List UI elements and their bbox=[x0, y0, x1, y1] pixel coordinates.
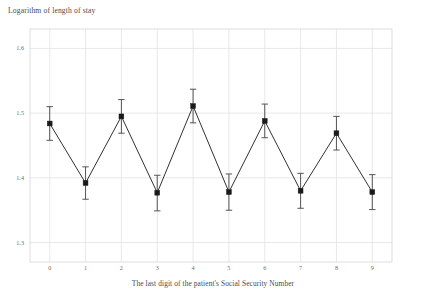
x-tick-label: 8 bbox=[329, 264, 343, 271]
y-tick-label: 1.6 bbox=[6, 44, 24, 51]
x-tick-label: 5 bbox=[222, 264, 236, 271]
x-tick-label: 3 bbox=[150, 264, 164, 271]
data-line bbox=[50, 106, 373, 193]
plot-canvas bbox=[0, 0, 426, 295]
x-tick-label: 7 bbox=[294, 264, 308, 271]
grid-lines bbox=[30, 29, 392, 262]
x-axis-label: The last digit of the patient's Social S… bbox=[0, 279, 426, 288]
x-tick-label: 2 bbox=[114, 264, 128, 271]
x-tick-label: 6 bbox=[258, 264, 272, 271]
y-tick-label: 1.3 bbox=[6, 239, 24, 246]
x-tick-label: 9 bbox=[365, 264, 379, 271]
x-tick-label: 0 bbox=[43, 264, 57, 271]
y-tick-label: 1.5 bbox=[6, 109, 24, 116]
chart-figure: Logarithm of length of stay 1.61.51.41.3… bbox=[0, 0, 426, 295]
x-tick-label: 4 bbox=[186, 264, 200, 271]
plot-frame bbox=[30, 29, 392, 262]
x-tick-label: 1 bbox=[79, 264, 93, 271]
y-tick-label: 1.4 bbox=[6, 174, 24, 181]
